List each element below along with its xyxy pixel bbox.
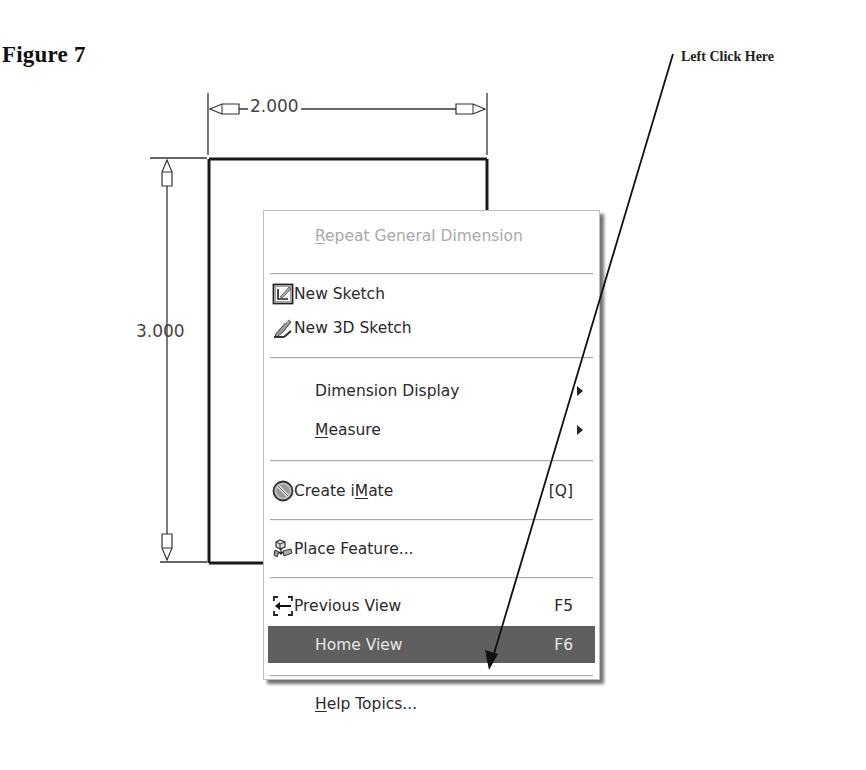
menu-separator — [270, 577, 593, 579]
menu-item-place-feature[interactable]: Place Feature... — [268, 532, 595, 566]
menu-separator — [270, 675, 593, 677]
width-dimension-value[interactable]: 2.000 — [248, 98, 301, 115]
previous-view-icon — [272, 595, 294, 617]
menu-item-label: Home View — [315, 636, 402, 654]
menu-separator — [270, 460, 593, 462]
menu-separator — [270, 273, 593, 275]
menu-item-measure[interactable]: Measure — [268, 413, 595, 447]
menu-item-shortcut: F5 — [554, 597, 573, 615]
menu-item-label: Place Feature... — [294, 540, 414, 558]
menu-item-label: New Sketch — [294, 285, 385, 303]
menu-item-label: Create iMate — [294, 482, 393, 500]
menu-item-home-view[interactable]: Home View F6 — [268, 626, 595, 663]
submenu-arrow-icon — [577, 386, 583, 396]
menu-item-shortcut: F6 — [554, 636, 573, 654]
label-text: Create i — [294, 482, 355, 500]
menu-item-label: Dimension Display — [315, 382, 459, 400]
menu-separator — [270, 519, 593, 521]
menu-item-new-3d-sketch[interactable]: New 3D Sketch — [268, 311, 595, 345]
menu-item-label: Previous View — [294, 597, 401, 615]
mnemonic: R — [315, 227, 325, 245]
label-text: easure — [328, 421, 381, 439]
mnemonic: M — [355, 482, 368, 500]
context-menu: Repeat General Dimension New Sketch New … — [263, 210, 600, 680]
submenu-arrow-icon — [577, 425, 583, 435]
height-dimension-value[interactable]: 3.000 — [134, 323, 187, 340]
label-text: elp Topics... — [327, 695, 417, 713]
menu-item-previous-view[interactable]: Previous View F5 — [268, 589, 595, 623]
menu-item-help-topics[interactable]: Help Topics... — [268, 687, 595, 721]
menu-item-dimension-display[interactable]: Dimension Display — [268, 374, 595, 408]
menu-item-repeat-general-dimension[interactable]: Repeat General Dimension — [268, 219, 595, 253]
menu-separator — [270, 357, 593, 359]
height-dimension[interactable] — [150, 158, 207, 562]
new-3d-sketch-icon — [272, 317, 294, 339]
place-feature-icon — [272, 538, 294, 560]
create-imate-icon — [272, 480, 294, 502]
label-text: epeat General Dimension — [325, 227, 523, 245]
menu-item-label: Help Topics... — [315, 695, 417, 713]
menu-item-label: Repeat General Dimension — [315, 227, 523, 245]
mnemonic: M — [315, 421, 328, 439]
mnemonic: H — [315, 695, 327, 713]
menu-item-new-sketch[interactable]: New Sketch — [268, 277, 595, 311]
menu-item-label: Measure — [315, 421, 381, 439]
label-text: ate — [368, 482, 393, 500]
menu-item-label: New 3D Sketch — [294, 319, 412, 337]
menu-item-create-imate[interactable]: Create iMate [Q] — [268, 474, 595, 508]
new-sketch-icon — [272, 283, 294, 305]
menu-item-shortcut: [Q] — [549, 482, 573, 500]
